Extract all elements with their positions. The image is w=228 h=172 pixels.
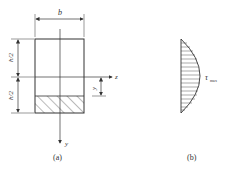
bottom-half-label: h/2 (7, 91, 15, 100)
shear-stress-diagram: b y z h/2 h/2 y (a) (0, 0, 228, 172)
z-axis-label: z (114, 73, 118, 81)
tau-max-label: τ (205, 73, 209, 82)
width-label: b (58, 8, 62, 17)
distribution-hatching (181, 43, 200, 110)
y-axis-label: y (64, 140, 69, 148)
caption-b: (b) (187, 153, 197, 162)
parabola-curve (181, 39, 200, 113)
tau-max-subscript: max (210, 78, 217, 83)
caption-a: (a) (53, 153, 62, 162)
figure-b: τ max (b) (181, 39, 217, 162)
y-distance-label: y (90, 86, 98, 91)
top-half-label: h/2 (7, 53, 15, 62)
hatched-area (35, 96, 84, 113)
figure-a: b y z h/2 h/2 y (a) (7, 8, 118, 162)
